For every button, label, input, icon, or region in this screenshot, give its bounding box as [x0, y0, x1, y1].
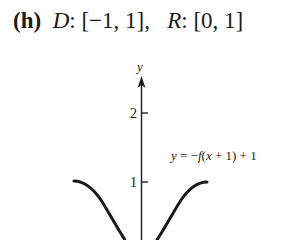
y-tick-label-1: 1: [130, 175, 137, 190]
curve-equation-label: y = −f(x + 1) + 1: [169, 148, 257, 163]
y-tick-label-2: 2: [130, 106, 137, 121]
y-axis-label: y: [135, 59, 143, 74]
graph: y 2 1 y = −f(x + 1) + 1: [0, 0, 281, 240]
curve-right-branch: [157, 182, 207, 240]
curve-left-branch: [74, 181, 125, 240]
